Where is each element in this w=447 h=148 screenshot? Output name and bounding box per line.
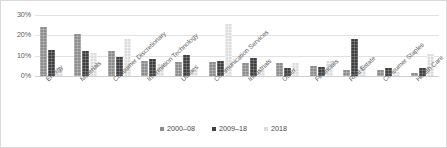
legend-item[interactable]: 2018 xyxy=(264,125,287,132)
bar[interactable] xyxy=(40,27,47,76)
y-axis-tick-label: 0% xyxy=(21,72,31,79)
legend-item[interactable]: 2009–18 xyxy=(212,125,247,132)
legend-swatch-2000-08-icon xyxy=(160,127,164,131)
y-axis-tick-label: 30% xyxy=(17,11,31,18)
legend-item-label: 2009–18 xyxy=(219,125,247,132)
chart-legend: 2000–082009–182018 xyxy=(1,125,446,132)
bar[interactable] xyxy=(74,34,81,76)
y-axis-tick-label: 20% xyxy=(17,32,31,39)
legend-swatch-2009-18-icon xyxy=(212,127,216,131)
y-axis: 0%10%20%30% xyxy=(1,15,31,76)
legend-swatch-2018-icon xyxy=(264,127,268,131)
bar-group xyxy=(271,15,305,76)
x-axis: EnergyMaterialsConsumer DiscretionaryInf… xyxy=(35,76,439,126)
legend-item-label: 2018 xyxy=(271,125,287,132)
y-axis-tick-label: 10% xyxy=(17,52,31,59)
chart-container: 0%10%20%30% EnergyMaterialsConsumer Disc… xyxy=(0,0,447,148)
bar[interactable] xyxy=(108,51,115,76)
legend-item[interactable]: 2000–08 xyxy=(160,125,195,132)
legend-item-label: 2000–08 xyxy=(167,125,195,132)
